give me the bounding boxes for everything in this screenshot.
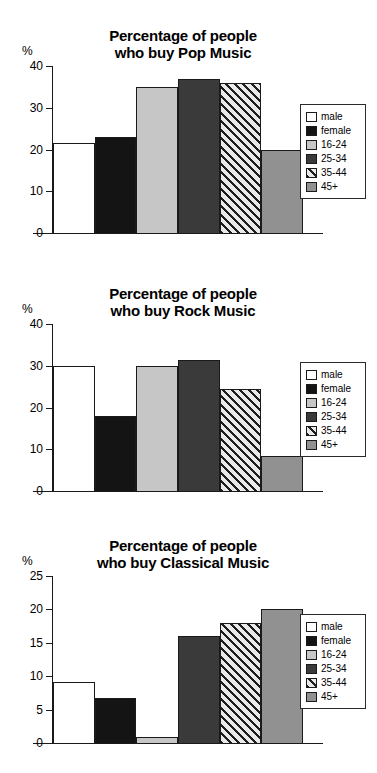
x-axis-line xyxy=(33,233,323,234)
bar-35-44 xyxy=(220,623,262,743)
y-axis-tick xyxy=(46,150,53,151)
y-axis-tick xyxy=(46,366,53,367)
y-axis-tick xyxy=(46,491,53,492)
legend-pop: malefemale16-2425-3435-4445+ xyxy=(300,104,366,199)
bar-45- xyxy=(261,150,303,234)
legend-swatch-icon xyxy=(306,168,317,178)
y-axis-tick xyxy=(46,676,53,677)
bar-45- xyxy=(261,456,303,491)
legend-swatch-icon xyxy=(306,126,317,136)
chart-title-pop: Percentage of people who buy Pop Music xyxy=(58,28,308,62)
legend-item-16-24: 16-24 xyxy=(306,648,361,661)
y-axis-tick-label: 40 xyxy=(14,318,43,330)
y-axis-tick-label: 15 xyxy=(14,637,43,649)
legend-label: 16-24 xyxy=(321,140,347,150)
bar-16-24 xyxy=(136,366,178,491)
legend-item-25-34: 25-34 xyxy=(306,152,361,165)
y-axis-tick-label: 30 xyxy=(14,102,43,114)
y-axis-tick-label: 0 xyxy=(14,737,43,749)
legend-swatch-icon xyxy=(306,154,317,164)
legend-item-35-44: 35-44 xyxy=(306,424,361,437)
bar-female xyxy=(95,137,137,233)
plot-area-rock xyxy=(53,324,303,491)
bar-male xyxy=(53,366,95,491)
y-axis-tick-label: 10 xyxy=(14,670,43,682)
legend-swatch-icon xyxy=(306,692,317,702)
plot-area-pop xyxy=(53,66,303,233)
legend-label: 45+ xyxy=(321,692,338,702)
bar-group-classical xyxy=(53,576,303,743)
legend-swatch-icon xyxy=(306,636,317,646)
legend-label: 16-24 xyxy=(321,398,347,408)
y-axis-tick-label: 25 xyxy=(14,570,43,582)
legend-item-35-44: 35-44 xyxy=(306,166,361,179)
bar-group-rock xyxy=(53,324,303,491)
x-axis-line xyxy=(33,491,323,492)
legend-label: female xyxy=(321,636,351,646)
bar-16-24 xyxy=(136,737,178,743)
legend-swatch-icon xyxy=(306,440,317,450)
legend-label: 45+ xyxy=(321,182,338,192)
legend-rock: malefemale16-2425-3435-4445+ xyxy=(300,362,366,457)
bar-45- xyxy=(261,609,303,743)
y-axis-tick xyxy=(46,710,53,711)
bar-group-pop xyxy=(53,66,303,233)
chart-title-line2: who buy Rock Music xyxy=(58,303,308,320)
legend-label: 35-44 xyxy=(321,168,347,178)
y-axis-tick xyxy=(46,66,53,67)
bar-35-44 xyxy=(220,83,262,233)
y-axis-tick-label: 10 xyxy=(14,443,43,455)
legend-label: 16-24 xyxy=(321,650,347,660)
chart-title-line2: who buy Classical Music xyxy=(58,555,308,572)
legend-item-45-: 45+ xyxy=(306,180,361,193)
legend-swatch-icon xyxy=(306,678,317,688)
y-axis-unit-label: % xyxy=(22,44,33,58)
bar-35-44 xyxy=(220,389,262,491)
legend-item-female: female xyxy=(306,634,361,647)
legend-swatch-icon xyxy=(306,384,317,394)
bar-25-34 xyxy=(178,360,220,492)
chart-pop-music: Percentage of people who buy Pop Music %… xyxy=(0,18,377,263)
y-axis-tick xyxy=(46,191,53,192)
legend-swatch-icon xyxy=(306,664,317,674)
y-axis-unit-label: % xyxy=(22,554,33,568)
bar-male xyxy=(53,143,95,233)
y-axis-tick-label: 20 xyxy=(14,402,43,414)
legend-label: 35-44 xyxy=(321,678,347,688)
y-axis-tick-label: 5 xyxy=(14,704,43,716)
y-axis-tick xyxy=(46,408,53,409)
y-axis-tick xyxy=(46,609,53,610)
y-axis-tick-label: 30 xyxy=(14,360,43,372)
y-axis-unit-label: % xyxy=(22,302,33,316)
legend-label: female xyxy=(321,126,351,136)
x-axis-line xyxy=(33,743,323,744)
legend-item-female: female xyxy=(306,124,361,137)
legend-item-male: male xyxy=(306,368,361,381)
legend-label: 25-34 xyxy=(321,664,347,674)
y-axis-tick xyxy=(46,743,53,744)
bar-female xyxy=(95,698,137,743)
legend-item-45-: 45+ xyxy=(306,690,361,703)
y-axis-tick-label: 0 xyxy=(14,227,43,239)
chart-title-line1: Percentage of people xyxy=(58,286,308,303)
legend-item-45-: 45+ xyxy=(306,438,361,451)
legend-item-25-34: 25-34 xyxy=(306,662,361,675)
legend-swatch-icon xyxy=(306,412,317,422)
y-axis-tick xyxy=(46,449,53,450)
bar-male xyxy=(53,682,95,743)
legend-label: male xyxy=(321,622,343,632)
legend-classical: malefemale16-2425-3435-4445+ xyxy=(300,614,366,709)
legend-item-female: female xyxy=(306,382,361,395)
y-axis-tick xyxy=(46,233,53,234)
y-axis-tick-label: 20 xyxy=(14,603,43,615)
legend-label: 25-34 xyxy=(321,154,347,164)
legend-swatch-icon xyxy=(306,140,317,150)
chart-classical-music: Percentage of people who buy Classical M… xyxy=(0,528,377,773)
legend-swatch-icon xyxy=(306,398,317,408)
legend-label: male xyxy=(321,112,343,122)
legend-item-male: male xyxy=(306,110,361,123)
chart-title-line1: Percentage of people xyxy=(58,28,308,45)
legend-item-16-24: 16-24 xyxy=(306,138,361,151)
legend-label: 35-44 xyxy=(321,426,347,436)
legend-swatch-icon xyxy=(306,112,317,122)
